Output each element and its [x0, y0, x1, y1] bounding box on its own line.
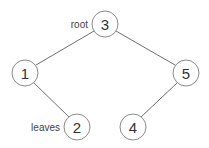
edge-3-1 — [36, 31, 94, 65]
edge-3-5 — [116, 31, 175, 65]
root-label: root — [71, 19, 88, 30]
edge-1-2 — [34, 83, 69, 117]
node-5: 5 — [173, 60, 199, 86]
edges — [34, 31, 177, 117]
edge-5-4 — [141, 83, 177, 117]
node-5-value: 5 — [182, 65, 190, 82]
leaves-label: leaves — [31, 122, 60, 133]
node-3-value: 3 — [101, 16, 109, 33]
binary-tree-diagram: 3 1 5 2 4 root leaves — [0, 0, 209, 148]
node-2: 2 — [64, 114, 90, 140]
node-2-value: 2 — [73, 119, 81, 136]
node-4: 4 — [120, 114, 146, 140]
node-1: 1 — [12, 60, 38, 86]
node-1-value: 1 — [21, 65, 29, 82]
node-4-value: 4 — [129, 119, 137, 136]
node-3: 3 — [92, 11, 118, 37]
